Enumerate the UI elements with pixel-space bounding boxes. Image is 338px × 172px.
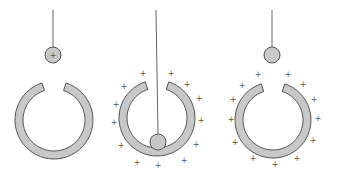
induced-charge-plus: + <box>121 82 128 91</box>
induced-charge-plus: + <box>193 140 200 149</box>
induced-charge-plus: + <box>134 158 141 167</box>
induced-charge-plus: + <box>196 94 203 103</box>
ball-charge-plus: + <box>50 51 57 60</box>
induced-charge-plus: + <box>155 161 162 170</box>
induced-charge-plus: + <box>198 116 205 125</box>
induced-charge-plus: + <box>272 160 279 169</box>
induced-charge-plus: + <box>140 69 147 78</box>
metal-ring <box>235 84 311 158</box>
charge-induction-diagram: +++++++++++++++++++++++++++ <box>0 0 338 172</box>
induced-charge-plus: + <box>113 100 120 109</box>
induced-charge-plus: + <box>228 115 235 124</box>
panel-1: + <box>15 10 93 159</box>
induced-charge-plus: + <box>315 114 322 123</box>
induced-charge-plus: + <box>184 80 191 89</box>
panel-2: +++++++++++++ <box>111 10 205 170</box>
panel-3: +++++++++++++ <box>228 10 322 169</box>
induced-charge-plus: + <box>118 141 125 150</box>
diagram-canvas: +++++++++++++++++++++++++++ <box>0 0 338 172</box>
metal-ring <box>15 83 93 159</box>
induced-charge-plus: + <box>255 70 262 79</box>
string <box>156 10 158 134</box>
induced-charge-plus: + <box>181 156 188 165</box>
induced-charge-plus: + <box>168 69 175 78</box>
induced-charge-plus: + <box>311 95 318 104</box>
induced-charge-plus: + <box>310 136 317 145</box>
induced-charge-plus: + <box>230 95 237 104</box>
induced-charge-plus: + <box>300 80 307 89</box>
induced-charge-plus: + <box>239 81 246 90</box>
charged-ball <box>150 134 166 150</box>
induced-charge-plus: + <box>294 154 301 163</box>
induced-charge-plus: + <box>111 118 118 127</box>
induced-charge-plus: + <box>232 138 239 147</box>
induced-charge-plus: + <box>285 70 292 79</box>
charged-ball <box>264 47 280 63</box>
induced-charge-plus: + <box>250 154 257 163</box>
